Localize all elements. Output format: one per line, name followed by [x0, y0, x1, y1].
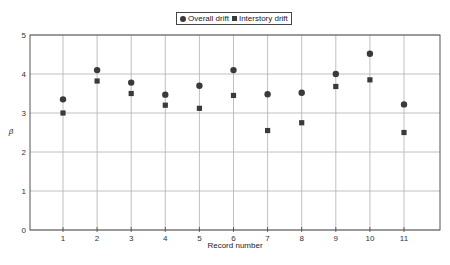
- x-tick-label: 3: [129, 234, 134, 243]
- y-axis-ticks: 012345: [22, 31, 27, 235]
- overall-drift-point: [230, 67, 236, 73]
- interstory-drift-point: [401, 130, 406, 135]
- overall-drift-point: [299, 90, 305, 96]
- x-axis-label: Record number: [207, 241, 262, 250]
- y-tick-label: 2: [22, 148, 27, 157]
- x-tick-label: 11: [400, 234, 409, 243]
- interstory-drift-point: [197, 106, 202, 111]
- interstory-drift-point: [367, 77, 372, 82]
- x-tick-label: 10: [365, 234, 374, 243]
- overall-drift-point: [264, 91, 270, 97]
- x-tick-label: 9: [334, 234, 339, 243]
- overall-drift-point: [196, 83, 202, 89]
- interstory-drift-point: [163, 103, 168, 108]
- interstory-drift-point: [129, 91, 134, 96]
- x-tick-label: 5: [197, 234, 202, 243]
- interstory-drift-point: [265, 128, 270, 133]
- overall-drift-point: [60, 96, 66, 102]
- x-tick-label: 7: [265, 234, 270, 243]
- grid: [30, 35, 440, 230]
- y-tick-label: 0: [22, 226, 27, 235]
- overall-drift-point: [162, 91, 168, 97]
- plot-frame: [30, 35, 440, 230]
- x-tick-label: 4: [163, 234, 168, 243]
- x-tick-label: 2: [95, 234, 100, 243]
- x-tick-label: 8: [299, 234, 304, 243]
- interstory-drift-point: [333, 84, 338, 89]
- y-tick-label: 5: [22, 31, 27, 40]
- overall-drift-point: [401, 101, 407, 107]
- y-tick-label: 1: [22, 187, 27, 196]
- overall-drift-point: [94, 67, 100, 73]
- y-tick-label: 3: [22, 109, 27, 118]
- overall-drift-point: [333, 71, 339, 77]
- overall-drift-point: [367, 51, 373, 57]
- interstory-drift-point: [60, 110, 65, 115]
- overall-drift-point: [128, 79, 134, 85]
- x-tick-label: 1: [61, 234, 66, 243]
- interstory-drift-point: [95, 78, 100, 83]
- y-tick-label: 4: [22, 70, 27, 79]
- interstory-drift-point: [299, 120, 304, 125]
- y-axis-label: β: [8, 127, 14, 136]
- scatter-chart: 012345 1234567891011 Record number β: [0, 0, 450, 265]
- interstory-drift-point: [231, 93, 236, 98]
